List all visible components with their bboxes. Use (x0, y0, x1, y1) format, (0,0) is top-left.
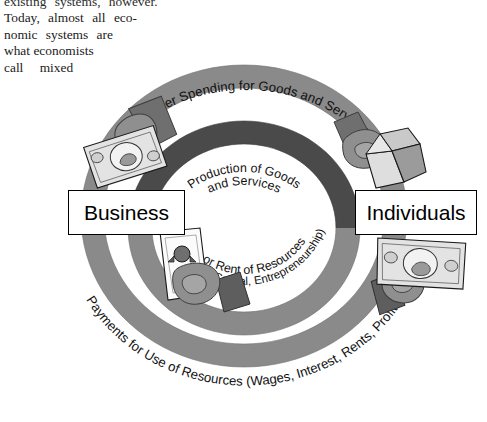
entity-label-business: Business (84, 201, 169, 225)
hand-holding-banknote-icon-bottom-right (368, 234, 468, 323)
entity-box-business[interactable]: Business (68, 190, 185, 235)
entity-box-individuals[interactable]: Individuals (355, 190, 477, 235)
entity-label-individuals: Individuals (366, 201, 465, 225)
circular-flow-diagram: Consumer Spending for Goods and Services… (0, 0, 487, 422)
hand-holding-package-icon-top-right (334, 112, 426, 188)
